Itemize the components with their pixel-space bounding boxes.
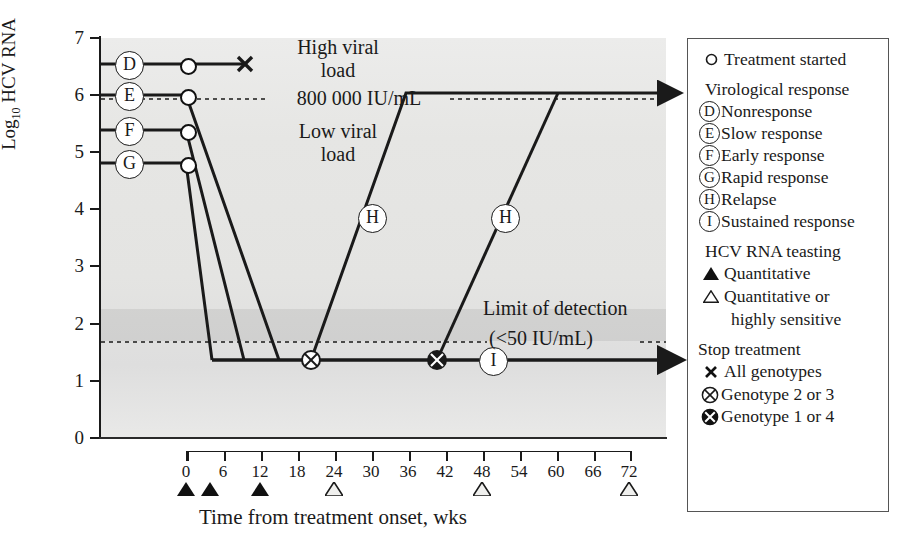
y-tick-label-2: 2 xyxy=(58,314,84,333)
x-tick-18 xyxy=(298,452,300,461)
x-tick-label-0: 0 xyxy=(171,462,201,482)
x-tick-label-66: 66 xyxy=(578,462,608,482)
low-viral-load-line2: load xyxy=(321,143,355,165)
treatment-start-marker-E xyxy=(180,89,197,106)
circled-letter-i-icon: I xyxy=(698,211,721,232)
x-tick-66 xyxy=(594,452,596,461)
legend-label-quantitative-sensitive-line2: highly sensitive xyxy=(731,309,882,330)
legend-row-all-genotypes: All genotypes xyxy=(698,361,882,382)
x-axis-line xyxy=(99,437,667,439)
circled-letter-g-icon: G xyxy=(698,167,721,188)
legend-row-quantitative: Quantitative xyxy=(698,263,882,284)
testing-marker-quantitative-wk12 xyxy=(251,482,269,496)
y-tick-4 xyxy=(90,208,99,210)
legend-header-hcv-rna-testing: HCV RNA teasting xyxy=(705,241,882,262)
y-tick-label-5: 5 xyxy=(58,142,84,161)
y-axis-title-main: HCV RNA xyxy=(0,18,19,103)
plot-node-H-second: H xyxy=(491,204,520,233)
legend-label-sustained-response: Sustained response xyxy=(721,211,882,232)
y-tick-label-4: 4 xyxy=(58,199,84,218)
x-tick-30 xyxy=(372,452,374,461)
x-tick-54 xyxy=(520,452,522,461)
x-tick-label-6: 6 xyxy=(208,462,238,482)
y-tick-label-0: 0 xyxy=(58,428,84,447)
y-tick-label-6: 6 xyxy=(58,85,84,104)
treatment-start-marker-F xyxy=(180,124,197,141)
y-tick-3 xyxy=(90,265,99,267)
x-tick-label-42: 42 xyxy=(430,462,460,482)
legend-row-treatment-started: Treatment started xyxy=(698,49,882,70)
y-tick-1 xyxy=(90,380,99,382)
legend-label-quantitative: Quantitative xyxy=(724,263,882,284)
open-circle-icon xyxy=(698,49,724,70)
x-tick-48 xyxy=(483,452,485,461)
y-axis-title: Log10 HCV RNA xyxy=(0,18,24,150)
legend-header-stop-treatment: Stop treatment xyxy=(698,339,882,360)
plot-node-F: F xyxy=(115,117,144,146)
circled-x-filled-icon xyxy=(698,406,721,427)
legend-label-all-genotypes: All genotypes xyxy=(724,361,882,382)
legend-label-quantitative-sensitive-line1: Quantitative or xyxy=(724,286,882,307)
treatment-start-marker-D xyxy=(180,58,197,75)
y-axis-title-sub: 10 xyxy=(9,107,23,119)
legend-row-genotype-1-4: Genotype 1 or 4 xyxy=(698,406,882,427)
legend-label-relapse: Relapse xyxy=(721,189,882,210)
low-viral-load-line1: Low viral xyxy=(299,120,377,142)
y-axis-line xyxy=(99,36,101,439)
plot-node-H-first: H xyxy=(358,204,387,233)
high-viral-load-line2: load xyxy=(321,59,355,81)
legend-row-nonresponse: D Nonresponse xyxy=(698,101,882,122)
y-tick-label-7: 7 xyxy=(58,28,84,47)
x-tick-label-60: 60 xyxy=(541,462,571,482)
y-tick-0 xyxy=(90,437,99,439)
legend-label-rapid-response: Rapid response xyxy=(721,167,882,188)
lod-label-line1: Limit of detection xyxy=(483,297,673,320)
testing-marker-sensitive-wk48 xyxy=(473,482,491,496)
legend-label-nonresponse: Nonresponse xyxy=(721,101,882,122)
plot-node-I: I xyxy=(479,347,508,376)
testing-marker-quantitative-wk4 xyxy=(201,482,219,496)
treatment-start-marker-G xyxy=(180,157,197,174)
threshold-label: 800 000 IU/mL xyxy=(266,87,452,110)
circled-letter-h-icon: H xyxy=(698,189,721,210)
legend-row-relapse: H Relapse xyxy=(698,189,882,210)
x-tick-0 xyxy=(187,452,189,461)
circled-letter-e-icon: E xyxy=(698,123,721,144)
x-tick-24 xyxy=(335,452,337,461)
legend-header-virological-response: Virological response xyxy=(705,79,882,100)
high-viral-load-label: High viral load xyxy=(263,36,413,82)
y-tick-label-3: 3 xyxy=(58,256,84,275)
y-tick-7 xyxy=(90,37,99,39)
lod-label-line2: (<50 IU/mL) xyxy=(489,327,639,350)
legend-label-treatment-started: Treatment started xyxy=(724,49,882,70)
x-mark-icon xyxy=(698,361,724,382)
figure-root: Log10 HCV RNA 7 6 5 4 3 2 1 0 xyxy=(0,0,920,542)
plot-node-E: E xyxy=(115,82,144,111)
testing-marker-quantitative-wk0 xyxy=(177,482,195,496)
x-tick-label-54: 54 xyxy=(504,462,534,482)
x-tick-72 xyxy=(630,452,632,461)
y-tick-6 xyxy=(90,94,99,96)
y-tick-2 xyxy=(90,323,99,325)
x-tick-60 xyxy=(557,452,559,461)
x-tick-label-48: 48 xyxy=(467,462,497,482)
x-tick-6 xyxy=(224,452,226,461)
legend-row-sustained-response: I Sustained response xyxy=(698,211,882,232)
y-axis-title-prefix: Log xyxy=(0,119,19,150)
legend-label-genotype-2-3: Genotype 2 or 3 xyxy=(721,384,882,405)
legend-row-quantitative-sensitive-cont: highly sensitive xyxy=(731,309,882,330)
legend-row-slow-response: E Slow response xyxy=(698,123,882,144)
plot-node-D: D xyxy=(115,51,144,80)
circled-letter-d-icon: D xyxy=(698,101,721,122)
x-tick-36 xyxy=(409,452,411,461)
legend-row-quantitative-sensitive: Quantitative or xyxy=(698,286,882,307)
x-tick-label-36: 36 xyxy=(393,462,423,482)
circled-x-open-icon xyxy=(698,384,721,405)
testing-marker-sensitive-wk24 xyxy=(325,482,343,496)
x-tick-label-30: 30 xyxy=(356,462,386,482)
legend-panel: Treatment started Virological response D… xyxy=(687,38,889,512)
x-tick-label-12: 12 xyxy=(245,462,275,482)
open-triangle-icon xyxy=(698,286,724,307)
legend-row-genotype-2-3: Genotype 2 or 3 xyxy=(698,384,882,405)
legend-label-slow-response: Slow response xyxy=(721,123,882,144)
